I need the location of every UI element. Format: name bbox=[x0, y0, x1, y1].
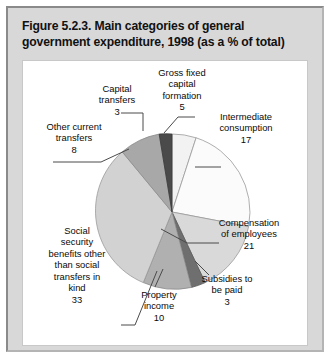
pie-label-line: Subsidies to bbox=[201, 273, 252, 284]
pie-label-compensation-of-employees: Compensation of employees 21 bbox=[201, 217, 297, 251]
pie-label-value: 8 bbox=[31, 144, 117, 155]
pie-label-other-current-transfers: Other current transfers 8 bbox=[31, 121, 117, 155]
pie-label-gross-fixed-capital-formation: Gross fixed capital formation 5 bbox=[145, 67, 219, 113]
pie-label-value: 3 bbox=[81, 106, 153, 117]
pie-label-line: Property bbox=[141, 289, 176, 300]
pie-label-subsidies-to-be-paid: Subsidies to be paid 3 bbox=[189, 273, 265, 307]
pie-label-intermediate-consumption: Intermediate consumption 17 bbox=[199, 111, 293, 145]
pie-label-line: Compensation bbox=[219, 217, 279, 228]
figure-frame: Figure 5.2.3. Main categories of general… bbox=[6, 6, 324, 352]
pie-label-line: Other current bbox=[46, 121, 101, 132]
pie-label-property-income: Property income 10 bbox=[127, 289, 191, 323]
pie-label-line: transfers in bbox=[54, 271, 100, 282]
pie-label-line: Capital bbox=[102, 83, 131, 94]
pie-label-line: Social bbox=[64, 225, 90, 236]
pie-label-line: security bbox=[61, 236, 93, 247]
pie-label-value: 17 bbox=[199, 134, 293, 145]
pie-label-line: formation bbox=[162, 90, 201, 101]
pie-label-line: kind bbox=[68, 282, 85, 293]
pie-label-value: 3 bbox=[189, 296, 265, 307]
pie-label-value: 10 bbox=[127, 312, 191, 323]
pie-label-line: benefits other bbox=[49, 248, 106, 259]
chart-plot-area: Gross fixed capital formation 5 Capital … bbox=[22, 60, 308, 346]
pie-label-line: capital bbox=[168, 78, 195, 89]
pie-label-line: than social bbox=[55, 259, 100, 270]
pie-label-line: consumption bbox=[219, 122, 272, 133]
pie-label-line: Gross fixed bbox=[158, 67, 205, 78]
pie-label-line: of employees bbox=[221, 228, 277, 239]
pie-label-line: income bbox=[144, 300, 174, 311]
pie-label-line: transfers bbox=[56, 132, 92, 143]
pie-label-line: be paid bbox=[212, 284, 243, 295]
leader-line-gross-fixed bbox=[164, 117, 195, 133]
pie-label-value: 21 bbox=[201, 240, 297, 251]
pie-label-social-security-benefits: Social security benefits other than soci… bbox=[35, 225, 119, 305]
pie-label-value: 33 bbox=[35, 294, 119, 305]
pie-label-line: transfers bbox=[99, 94, 135, 105]
figure-title: Figure 5.2.3. Main categories of general… bbox=[22, 18, 314, 50]
pie-label-capital-transfers: Capital transfers 3 bbox=[81, 83, 153, 117]
pie-label-line: Intermediate bbox=[220, 111, 272, 122]
